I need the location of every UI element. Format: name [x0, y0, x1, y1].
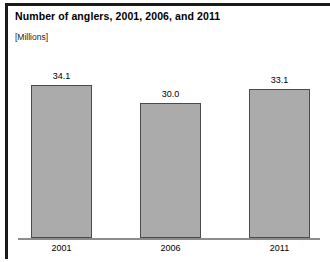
- bar-2001: [31, 85, 92, 238]
- bar-value-2006: 30.0: [140, 89, 201, 99]
- x-axis-line: [18, 238, 320, 240]
- x-tick-label-2001: 2001: [31, 243, 92, 253]
- bar-2006: [140, 103, 201, 238]
- x-tick-label-2011: 2011: [249, 243, 310, 253]
- bar-value-2011: 33.1: [249, 75, 310, 85]
- chart-figure: Number of anglers, 2001, 2006, and 2011 …: [0, 0, 330, 262]
- plot-area: 34.1 30.0 33.1 2001 2006 2011: [0, 0, 330, 262]
- bar-2011: [249, 89, 310, 238]
- x-tick-label-2006: 2006: [140, 243, 201, 253]
- bar-value-2001: 34.1: [31, 71, 92, 81]
